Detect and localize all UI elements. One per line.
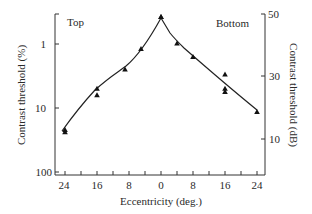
data-points (62, 14, 260, 134)
region-label-bottom: Bottom (216, 17, 249, 29)
data-point-triangle (254, 109, 260, 114)
data-point-triangle (222, 72, 228, 77)
y-left-tick-labels: 1 10 100 (35, 38, 53, 178)
y-tick-1: 1 (41, 38, 47, 50)
fit-curve-bottom (161, 18, 257, 110)
fit-curve-top (62, 18, 161, 131)
y-axis-right-title: Contrast threshold (dB) (287, 43, 300, 147)
axes (55, 14, 265, 175)
x-tick-label: 8 (190, 179, 196, 191)
y-tick-100: 100 (36, 166, 53, 178)
contrast-threshold-chart: 1 10 100 50 30 10 24 16 8 0 8 16 24 Ecce… (0, 0, 312, 214)
x-tick-labels: 24 16 8 0 8 16 24 (59, 179, 264, 191)
data-point-triangle (122, 66, 128, 71)
x-ticks (65, 171, 257, 175)
data-point-triangle (94, 92, 100, 97)
y-right-tick-30: 30 (269, 70, 281, 82)
x-tick-label: 24 (59, 179, 71, 191)
region-label-top: Top (67, 16, 84, 28)
x-tick-label: 24 (252, 179, 264, 191)
data-point-triangle (158, 14, 164, 19)
y-tick-10: 10 (35, 102, 47, 114)
y-right-tick-10: 10 (269, 133, 281, 145)
x-tick-label: 8 (126, 179, 132, 191)
y-right-tick-50: 50 (268, 8, 280, 20)
x-tick-label: 16 (220, 179, 232, 191)
x-axis-title: Eccentricity (deg.) (120, 195, 202, 208)
y-right-tick-labels: 50 30 10 (268, 8, 281, 145)
x-tick-label: 0 (158, 179, 164, 191)
y-axis-left-title: Contrast threshold (%) (15, 45, 28, 146)
x-tick-label: 16 (92, 179, 104, 191)
